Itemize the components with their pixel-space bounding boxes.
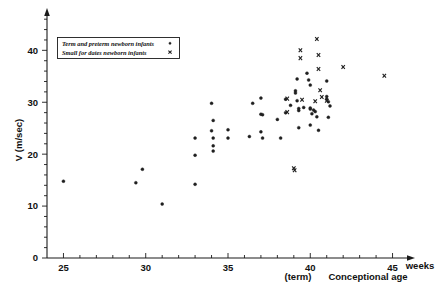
data-point-circle [248,135,251,138]
data-point-circle [296,77,299,80]
data-series-term-preterm [62,72,332,206]
data-point-x [341,65,344,69]
data-point-x [299,48,302,52]
data-point-circle [227,137,230,140]
data-point-circle [296,99,299,102]
data-point-x [299,56,302,60]
y-axis-tick-labels: 010203040 [27,45,38,264]
data-point-circle [305,72,308,75]
data-point-circle [212,144,215,147]
y-axis-title: V (m/sec) [13,119,24,161]
legend: Term and preterm newborn infants Small f… [58,38,180,59]
legend-label-0: Term and preterm newborn infants [62,40,155,47]
data-point-circle [327,116,330,119]
x-axis-title-text: Conceptional age [328,271,407,282]
data-point-circle [62,180,65,183]
y-tick-label: 20 [27,149,38,160]
data-point-circle [261,113,264,116]
data-point-circle [302,106,305,109]
data-point-circle [297,126,300,129]
term-annotation: (term) [285,271,312,282]
data-series-small-for-dates [286,37,386,172]
data-point-circle [194,154,197,157]
data-point-x [317,67,320,71]
data-point-circle [294,91,297,94]
data-point-circle [194,137,197,140]
data-point-circle [261,137,264,140]
data-point-circle [279,137,282,140]
data-point-x [315,37,318,41]
data-point-circle [329,104,332,107]
legend-label-1: Small for dates newborn infants [62,49,147,56]
y-tick-label: 10 [27,200,38,211]
data-point-circle [227,128,230,131]
data-point-circle [259,97,262,100]
y-axis-title-text: V (m/sec) [13,119,24,161]
data-point-circle [297,109,300,112]
legend-marker-circle-icon [169,42,171,44]
data-point-circle [325,79,328,82]
data-point-circle [212,137,215,140]
data-point-circle [289,104,292,107]
data-point-x [320,95,323,99]
data-point-circle [310,112,313,115]
y-tick-label: 30 [27,97,38,108]
data-point-x [314,99,317,103]
data-point-circle [161,203,164,206]
y-tick-label: 40 [27,45,38,56]
data-point-circle [309,108,312,111]
scatter-plot-figure: 010203040 2530354045 V (m/sec) (term) Co… [0,0,437,286]
data-point-circle [317,129,320,132]
data-point-x [300,98,303,102]
y-axis-arrow [44,8,50,16]
data-point-circle [307,78,310,81]
x-axis-unit-text: weeks [405,260,435,271]
data-point-circle [276,118,279,121]
y-tick-label: 0 [33,252,38,263]
data-point-circle [251,102,254,105]
data-point-x [318,88,321,92]
x-tick-label: 35 [223,262,234,273]
x-tick-label: 25 [58,262,69,273]
data-point-circle [212,150,215,153]
data-point-circle [194,183,197,186]
plot-canvas: 010203040 2530354045 V (m/sec) (term) Co… [0,0,437,286]
data-point-circle [315,115,318,118]
data-point-circle [259,130,262,133]
x-axis-ticks [63,253,392,258]
x-tick-label: 30 [140,262,151,273]
data-point-circle [309,124,312,127]
data-point-circle [309,84,312,87]
data-point-circle [210,102,213,105]
data-point-circle [141,168,144,171]
data-point-circle [314,110,317,113]
y-axis-ticks [42,19,47,258]
data-point-circle [210,129,213,132]
data-point-circle [134,181,137,184]
data-point-circle [212,119,215,122]
data-point-x [317,53,320,57]
data-point-x [383,74,386,78]
